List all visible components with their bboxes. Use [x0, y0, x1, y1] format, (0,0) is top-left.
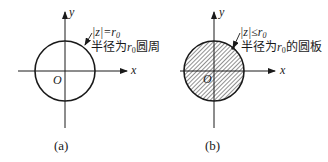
pointer-arrow-b — [233, 33, 240, 48]
origin-label-a: O — [53, 74, 62, 86]
formula-label-b: |z|≤r0 — [240, 26, 267, 40]
origin-label-b: O — [203, 73, 212, 85]
y-axis-label-b: y — [219, 6, 224, 18]
formula-text-a: |z|=r — [92, 25, 116, 39]
desc-suffix-b: 的圆板 — [286, 40, 322, 54]
caption-a: (a) — [54, 139, 68, 152]
formula-label-a: |z|=r0 — [92, 26, 120, 40]
desc-prefix-a: 半径为 — [91, 40, 127, 54]
y-axis-label-a: y — [69, 6, 74, 18]
x-axis-label-a: x — [131, 64, 136, 76]
desc-prefix-b: 半径为 — [241, 40, 277, 54]
pointer-dot-b — [231, 46, 235, 50]
desc-suffix-a: 圆周 — [136, 40, 160, 54]
caption-b: (b) — [205, 139, 220, 152]
description-label-a: 半径为r0圆周 — [91, 41, 160, 55]
description-label-b: 半径为r0的圆板 — [241, 41, 322, 55]
formula-subscript-b: 0 — [263, 31, 267, 40]
diagram-canvas — [0, 0, 328, 162]
formula-subscript-a: 0 — [116, 31, 120, 40]
x-axis-label-b: x — [280, 64, 285, 76]
formula-text-b: |z|≤r — [240, 25, 263, 39]
